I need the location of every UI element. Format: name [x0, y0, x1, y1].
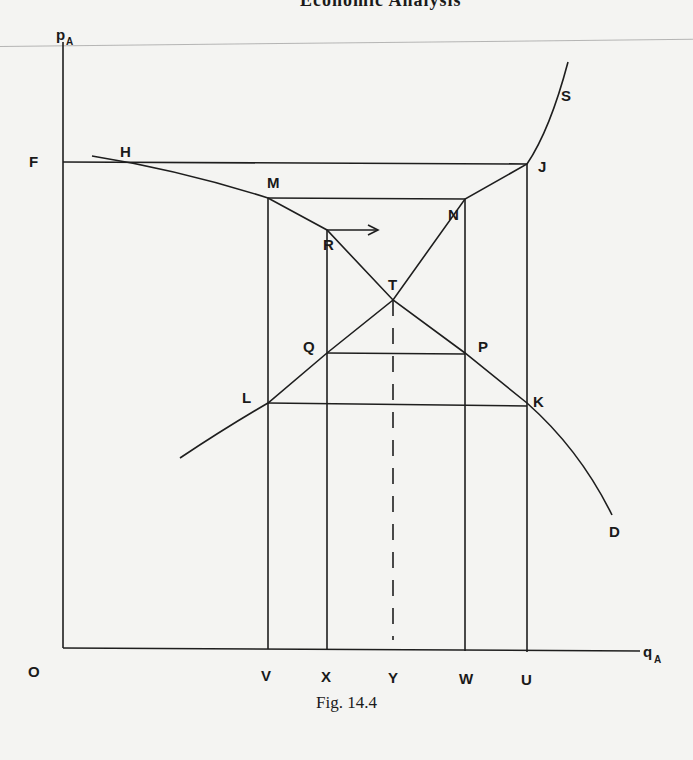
- label-P: P: [478, 338, 488, 355]
- tick-label-V: V: [261, 667, 271, 684]
- x-axis-label: q: [643, 643, 652, 660]
- x-axis: [63, 648, 640, 651]
- label-K: K: [533, 393, 544, 410]
- label-H: H: [120, 143, 131, 160]
- label-Q: Q: [303, 338, 315, 355]
- label-L: L: [242, 389, 251, 406]
- y-axis-label-sub: A: [66, 36, 73, 47]
- label-D: D: [609, 523, 620, 540]
- label-N: N: [448, 206, 459, 223]
- label-S: S: [561, 87, 571, 104]
- supply-demand-diagram: p A q A O F H M N R T Q P L K J S D V X …: [0, 0, 693, 760]
- origin-label: O: [28, 663, 40, 680]
- tick-label-Y: Y: [388, 669, 398, 686]
- label-T: T: [388, 276, 397, 293]
- label-M: M: [267, 174, 280, 191]
- line-M-N: [268, 198, 465, 199]
- label-F: F: [29, 153, 38, 170]
- tick-label-W: W: [459, 670, 474, 687]
- x-axis-label-sub: A: [654, 654, 661, 665]
- tick-label-U: U: [521, 671, 532, 688]
- figure-caption: Fig. 14.4: [0, 693, 693, 713]
- supply-curve: [180, 62, 568, 458]
- line-L-K: [268, 403, 527, 406]
- y-axis-label: p: [56, 26, 65, 43]
- tick-label-X: X: [321, 668, 331, 685]
- line-Q-P: [327, 353, 465, 354]
- demand-curve: [92, 156, 612, 515]
- label-R: R: [323, 236, 334, 253]
- label-J: J: [538, 158, 546, 175]
